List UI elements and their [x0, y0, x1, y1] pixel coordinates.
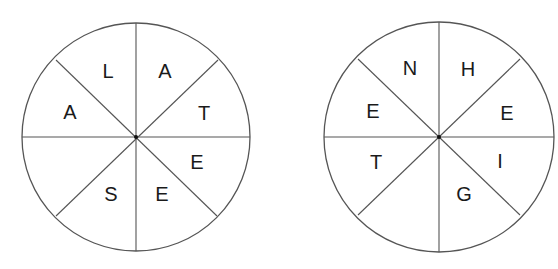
wheel-left-letter: S [104, 183, 117, 205]
wheel-left-letter: E [155, 183, 168, 205]
wheel-right-letter: N [403, 57, 417, 79]
wheel-right-letter: E [366, 100, 379, 122]
wheel-right-letter: G [456, 183, 472, 205]
wheel-right-letter: E [500, 102, 513, 124]
wheel-left-letter: A [158, 60, 172, 82]
letter-wheels-diagram: L A A T E S E N H E E T I G [0, 0, 558, 269]
wheel-left-letter: T [198, 102, 210, 124]
wheel-left: L A A T E S E [22, 23, 250, 251]
wheel-left-letter: E [190, 151, 203, 173]
wheel-right-letter: T [370, 151, 382, 173]
wheel-left-letter: L [102, 60, 113, 82]
wheel-right: N H E E T I G [324, 22, 554, 252]
wheel-left-letter: A [63, 101, 77, 123]
wheel-right-letter: H [461, 58, 475, 80]
wheel-right-hub [437, 135, 441, 139]
wheel-right-letter: I [497, 150, 503, 172]
wheel-left-hub [134, 135, 138, 139]
